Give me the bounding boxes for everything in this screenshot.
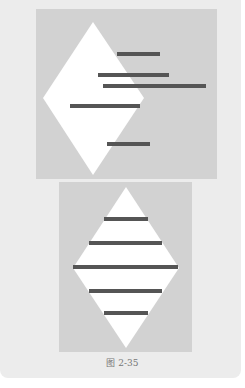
top-bar-3	[103, 84, 206, 88]
page-card: 图 2-35	[0, 0, 241, 378]
bottom-bar-5	[104, 311, 148, 315]
bottom-bar-1	[104, 217, 148, 221]
top-diamond-figure	[36, 9, 217, 179]
bottom-bar-4	[89, 289, 162, 293]
bottom-diamond-figure	[59, 182, 192, 352]
figure-caption: 图 2-35	[0, 356, 245, 369]
bottom-bar-2	[89, 241, 162, 245]
top-bar-5	[107, 142, 150, 146]
top-diamond	[43, 22, 144, 175]
top-bar-2	[98, 73, 169, 77]
top-panel	[36, 9, 217, 179]
top-bar-1	[117, 52, 160, 56]
bottom-panel	[59, 182, 192, 352]
bottom-bar-3	[73, 265, 178, 269]
top-bar-4	[70, 104, 140, 108]
